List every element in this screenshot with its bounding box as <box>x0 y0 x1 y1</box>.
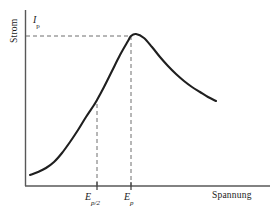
y-axis-label: Strom <box>10 8 20 54</box>
half-peak-subscript: p/2 <box>91 199 100 207</box>
half-peak-potential-label: Ep/2 <box>85 192 100 205</box>
peak-current-subscript: p <box>36 22 40 30</box>
current-response-curve <box>30 34 216 175</box>
peak-current-label: Ip <box>33 15 40 28</box>
peak-potential-label: Ep <box>124 192 134 205</box>
peak-potential-subscript: p <box>130 199 134 207</box>
voltammogram-figure: Strom Spannung Ip Ep/2 Ep <box>0 0 279 214</box>
plot-area <box>0 0 279 214</box>
x-axis-label: Spannung <box>212 191 252 201</box>
